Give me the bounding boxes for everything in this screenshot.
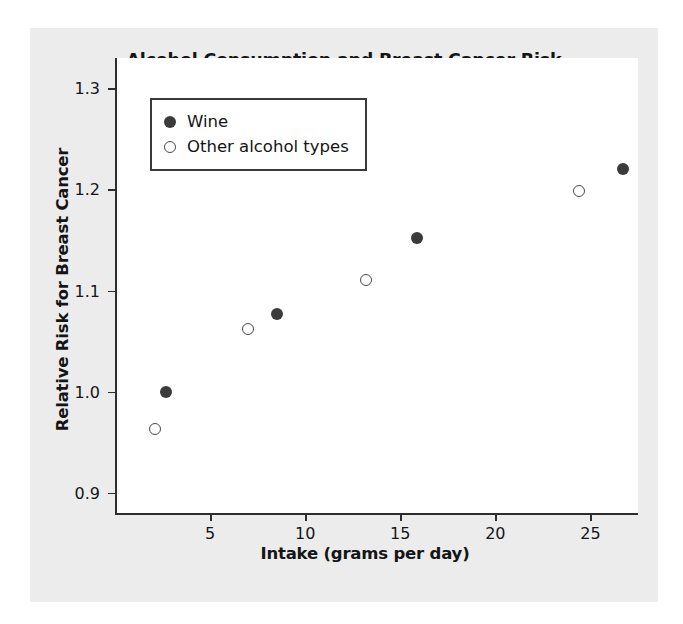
- x-tick-label: 5: [205, 524, 215, 543]
- data-point: [411, 232, 423, 244]
- open-circle-icon: [164, 141, 176, 153]
- y-tick-label: 0.9: [75, 483, 100, 502]
- x-tick-mark: [495, 513, 497, 521]
- legend-box: WineOther alcohol types: [150, 98, 367, 171]
- legend-entry: Wine: [164, 109, 349, 134]
- figure-panel: Alcohol Consumption and Breast Cancer Ri…: [30, 28, 658, 602]
- x-tick-mark: [305, 513, 307, 521]
- data-point: [573, 185, 585, 197]
- y-tick-mark: 0.9: [108, 493, 115, 495]
- x-tick-label: 15: [390, 524, 410, 543]
- legend-label: Other alcohol types: [187, 137, 349, 156]
- y-tick-label: 1.3: [75, 79, 100, 98]
- x-tick-label: 20: [485, 524, 505, 543]
- filled-circle-icon: [164, 116, 176, 128]
- x-tick-mark: [590, 513, 592, 521]
- legend-label: Wine: [187, 112, 228, 131]
- y-tick-label: 1.1: [75, 281, 100, 300]
- y-tick-mark: 1.0: [108, 392, 115, 394]
- y-tick-mark: 1.3: [108, 88, 115, 90]
- x-tick-label: 25: [580, 524, 600, 543]
- y-axis-title: Relative Risk for Breast Cancer: [53, 90, 72, 490]
- data-point: [242, 323, 254, 335]
- x-axis-line: [115, 513, 638, 515]
- y-axis-line: [115, 58, 117, 513]
- y-tick-label: 1.2: [75, 180, 100, 199]
- data-point: [617, 163, 629, 175]
- data-point: [271, 308, 283, 320]
- x-tick-label: 10: [295, 524, 315, 543]
- data-point: [160, 386, 172, 398]
- x-axis-title: Intake (grams per day): [115, 544, 615, 563]
- x-tick-mark: [400, 513, 402, 521]
- data-point: [360, 274, 372, 286]
- data-point: [149, 423, 161, 435]
- y-tick-label: 1.0: [75, 382, 100, 401]
- x-tick-mark: [210, 513, 212, 521]
- plot-area: 0.91.01.11.21.3 510152025 WineOther alco…: [115, 58, 638, 513]
- y-tick-mark: 1.2: [108, 189, 115, 191]
- legend-entry: Other alcohol types: [164, 134, 349, 159]
- y-tick-mark: 1.1: [108, 291, 115, 293]
